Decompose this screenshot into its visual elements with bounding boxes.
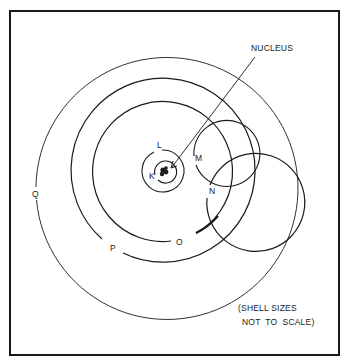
nucleus-label: NUCLEUS (251, 44, 293, 53)
shell-q (36, 57, 298, 319)
shell-o-accent (196, 216, 218, 233)
shell-n (207, 153, 305, 251)
shell-label-p: P (110, 244, 116, 253)
nucleus-arrow (172, 57, 255, 167)
shell-label-n: N (209, 187, 215, 196)
scale-note-line2: NOT TO SCALE) (242, 318, 314, 327)
shell-label-m: M (195, 154, 202, 163)
shell-label-q: Q (32, 190, 39, 199)
shell-label-o: O (176, 238, 183, 247)
shell-label-l: L (157, 141, 162, 150)
scale-note-line1: (SHELL SIZES (238, 304, 297, 313)
shell-label-k: K (149, 172, 155, 181)
nucleus-icon (160, 166, 169, 176)
